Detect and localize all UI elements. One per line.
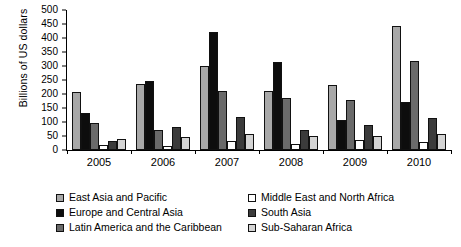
- bar[interactable]: [346, 100, 355, 150]
- x-tick-mark: [131, 150, 132, 154]
- y-tick-label: 250: [34, 75, 58, 85]
- plot-area: 050100150200250300350400450500 200520062…: [36, 10, 451, 158]
- x-tick-label: 2005: [87, 156, 111, 168]
- bar-group: [195, 10, 259, 150]
- legend-item[interactable]: East Asia and Pacific: [56, 192, 248, 203]
- y-tick-label: 50: [34, 131, 58, 141]
- x-tick-label: 2006: [151, 156, 175, 168]
- y-tick-label: 450: [34, 19, 58, 29]
- y-tick-mark: [62, 24, 66, 25]
- bar[interactable]: [90, 123, 99, 150]
- y-tick-mark: [62, 150, 66, 151]
- bar[interactable]: [392, 26, 401, 150]
- legend-item[interactable]: Sub-Saharan Africa: [248, 222, 352, 233]
- y-tick-mark: [62, 52, 66, 53]
- bar[interactable]: [355, 140, 364, 150]
- legend-label: Europe and Central Asia: [69, 207, 183, 218]
- y-tick-label: 0: [34, 145, 58, 155]
- y-tick-label: 100: [34, 117, 58, 127]
- x-tick-mark: [67, 150, 68, 154]
- legend-label: Latin America and the Caribbean: [69, 222, 222, 233]
- bar[interactable]: [410, 61, 419, 150]
- y-axis-ticks: 050100150200250300350400450500: [36, 10, 62, 150]
- legend-label: East Asia and Pacific: [69, 192, 167, 203]
- bar[interactable]: [428, 118, 437, 150]
- y-tick-mark: [62, 136, 66, 137]
- y-tick-label: 500: [34, 5, 58, 15]
- y-tick-mark: [62, 108, 66, 109]
- x-tick-mark: [195, 150, 196, 154]
- bar-group: [131, 10, 195, 150]
- bar[interactable]: [172, 127, 181, 150]
- bar[interactable]: [264, 91, 273, 150]
- legend-label: Middle East and North Africa: [261, 192, 394, 203]
- bar[interactable]: [72, 92, 81, 150]
- legend-label: Sub-Saharan Africa: [261, 222, 352, 233]
- y-tick-mark: [62, 38, 66, 39]
- bar[interactable]: [227, 141, 236, 150]
- bars-canvas: [67, 10, 451, 150]
- legend-row: Europe and Central AsiaSouth Asia: [56, 205, 456, 220]
- legend-swatch: [248, 194, 256, 202]
- bar-group: [323, 10, 387, 150]
- legend-swatch: [56, 224, 64, 232]
- bar[interactable]: [245, 134, 254, 150]
- bar[interactable]: [236, 117, 245, 150]
- y-tick-label: 400: [34, 33, 58, 43]
- bar[interactable]: [163, 146, 172, 150]
- legend-item[interactable]: South Asia: [248, 207, 311, 218]
- bar[interactable]: [328, 85, 337, 150]
- y-tick-mark: [62, 94, 66, 95]
- x-tick-label: 2008: [279, 156, 303, 168]
- bar[interactable]: [145, 81, 154, 150]
- legend-row: Latin America and the CaribbeanSub-Sahar…: [56, 220, 456, 235]
- x-tick-label: 2010: [407, 156, 431, 168]
- legend-item[interactable]: Latin America and the Caribbean: [56, 222, 248, 233]
- bar[interactable]: [136, 84, 145, 150]
- bar[interactable]: [81, 113, 90, 150]
- bar[interactable]: [154, 130, 163, 150]
- x-tick-mark: [259, 150, 260, 154]
- bar[interactable]: [117, 139, 126, 150]
- bar[interactable]: [181, 137, 190, 150]
- y-tick-mark: [62, 10, 66, 11]
- bar[interactable]: [300, 130, 309, 150]
- y-tick-label: 300: [34, 61, 58, 71]
- bar-group: [67, 10, 131, 150]
- chart-legend: East Asia and PacificMiddle East and Nor…: [56, 190, 456, 235]
- y-tick-label: 150: [34, 103, 58, 113]
- legend-swatch: [248, 224, 256, 232]
- bar-group: [259, 10, 323, 150]
- bar[interactable]: [200, 66, 209, 150]
- chart-figure: Billions of US dollars 05010015020025030…: [0, 0, 461, 247]
- bar[interactable]: [218, 91, 227, 150]
- y-tick-label: 350: [34, 47, 58, 57]
- legend-swatch: [56, 194, 64, 202]
- x-tick-mark: [323, 150, 324, 154]
- legend-item[interactable]: Middle East and North Africa: [248, 192, 394, 203]
- y-tick-mark: [62, 66, 66, 67]
- y-axis-label: Billions of US dollars: [17, 0, 29, 133]
- bar[interactable]: [291, 144, 300, 150]
- bar[interactable]: [309, 136, 318, 150]
- bar[interactable]: [108, 141, 117, 150]
- x-tick-label: 2007: [215, 156, 239, 168]
- bar[interactable]: [99, 145, 108, 150]
- y-tick-mark: [62, 80, 66, 81]
- legend-swatch: [248, 209, 256, 217]
- bar[interactable]: [401, 102, 410, 150]
- bar[interactable]: [373, 136, 382, 150]
- bar[interactable]: [337, 120, 346, 150]
- bar[interactable]: [273, 62, 282, 150]
- bar[interactable]: [364, 125, 373, 150]
- legend-item[interactable]: Europe and Central Asia: [56, 207, 248, 218]
- bar[interactable]: [419, 142, 428, 150]
- bar[interactable]: [282, 98, 291, 150]
- y-tick-label: 200: [34, 89, 58, 99]
- bar-group: [387, 10, 451, 150]
- bar[interactable]: [437, 134, 446, 150]
- x-tick-mark: [451, 150, 452, 154]
- y-tick-mark: [62, 122, 66, 123]
- bar[interactable]: [209, 32, 218, 150]
- legend-row: East Asia and PacificMiddle East and Nor…: [56, 190, 456, 205]
